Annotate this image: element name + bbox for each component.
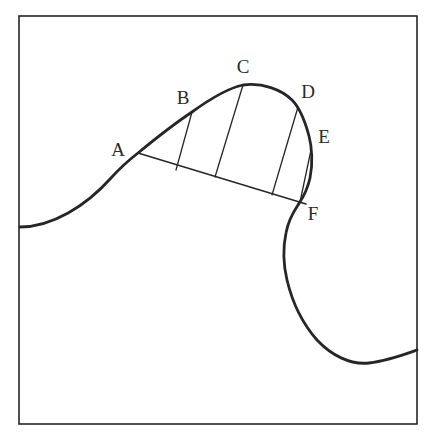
vertex-labels-group: ABCDEF [111, 56, 330, 224]
vertex-label-f: F [308, 203, 319, 224]
baseline-chord-AF [138, 153, 306, 204]
figure-container: ABCDEF [0, 0, 432, 436]
vertex-label-c: C [237, 56, 250, 77]
vertex-label-d: D [301, 81, 315, 102]
vertex-label-e: E [318, 126, 330, 147]
vertex-label-a: A [111, 139, 125, 160]
main-curve [20, 84, 417, 363]
vertex-label-b: B [177, 87, 190, 108]
chord-D [272, 107, 298, 195]
chord-C [215, 85, 243, 177]
figure-svg: ABCDEF [0, 0, 432, 436]
